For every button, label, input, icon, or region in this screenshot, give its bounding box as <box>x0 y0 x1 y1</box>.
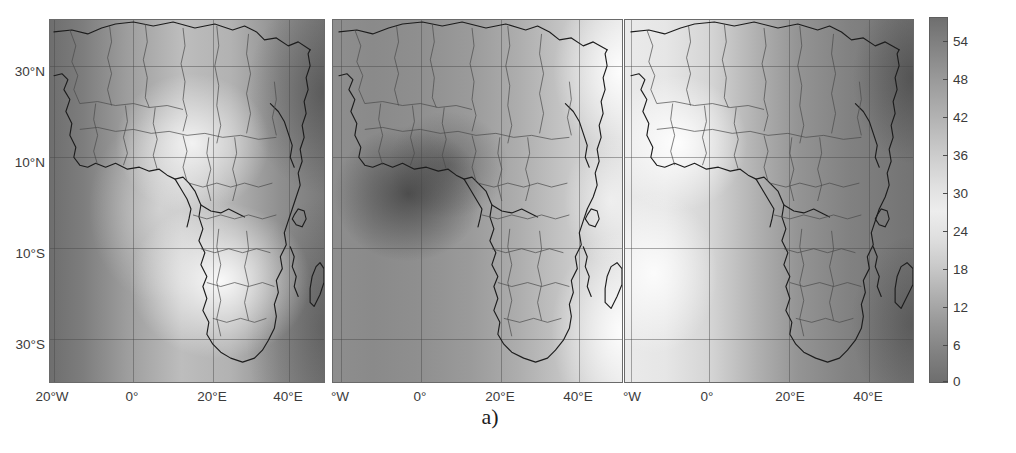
y-tick-label-30n: 30°N <box>0 64 45 79</box>
x-tick-label-p2-40e: 40°E <box>563 389 592 404</box>
x-tick-label-p3-20w: °W <box>623 389 641 404</box>
africa-map-outline-middle <box>333 20 622 382</box>
y-tick-text: 30°N <box>15 64 45 79</box>
colorbar-tick-mark <box>943 117 948 118</box>
colorbar-tick-mark <box>943 307 948 308</box>
colorbar-tick-label-42: 42 <box>953 110 968 125</box>
colorbar-tick-mark <box>943 155 948 156</box>
country-borders <box>70 24 276 336</box>
africa-map-outline-left <box>50 20 324 382</box>
colorbar-gradient <box>929 17 948 383</box>
x-tick-label-p1-20e: 20°E <box>197 389 226 404</box>
x-tick-label-p3-40e: 40°E <box>853 389 882 404</box>
x-tick-label-p1-20w: 20°W <box>35 389 68 404</box>
coastlines <box>54 22 324 362</box>
coastlines <box>339 22 622 362</box>
colorbar-tick-mark <box>943 381 948 382</box>
colorbar-tick-label-54: 54 <box>953 34 968 49</box>
y-tick-text: 30°S <box>16 337 45 352</box>
map-panel-middle[interactable] <box>332 19 623 383</box>
y-tick-text: 10°N <box>15 155 45 170</box>
map-panel-left[interactable] <box>49 19 325 383</box>
colorbar-tick-mark <box>943 345 948 346</box>
figure-root: 30°N 10°N 10°S 30°S <box>0 0 1016 453</box>
x-tick-label-p3-20e: 20°E <box>775 389 804 404</box>
colorbar-tick-mark <box>943 79 948 80</box>
figure-caption: a) <box>0 404 980 430</box>
map-panel-right[interactable] <box>624 19 914 383</box>
y-tick-text: 10°S <box>16 246 45 261</box>
y-tick-label-10n: 10°N <box>0 155 45 170</box>
coastlines <box>631 22 913 362</box>
y-tick-label-30s: 30°S <box>0 337 45 352</box>
colorbar-tick-label-36: 36 <box>953 148 968 163</box>
country-borders <box>355 24 572 336</box>
x-tick-label-p2-0: 0° <box>414 389 427 404</box>
colorbar-tick-label-0: 0 <box>953 374 961 389</box>
x-tick-label-p1-0: 0° <box>126 389 139 404</box>
colorbar-tick-label-6: 6 <box>953 338 961 353</box>
colorbar-tick-label-48: 48 <box>953 72 968 87</box>
colorbar-tick-mark <box>943 41 948 42</box>
y-tick-label-10s: 10°S <box>0 246 45 261</box>
x-tick-label-p1-40e: 40°E <box>273 389 302 404</box>
colorbar-tick-mark <box>943 193 948 194</box>
colorbar-tick-label-12: 12 <box>953 300 968 315</box>
colorbar-tick-label-18: 18 <box>953 262 968 277</box>
colorbar-tick-mark <box>943 231 948 232</box>
colorbar-tick-mark <box>943 269 948 270</box>
x-tick-label-p2-20w: °W <box>331 389 349 404</box>
colorbar-tick-label-24: 24 <box>953 224 968 239</box>
africa-map-outline-right <box>625 20 913 382</box>
x-tick-label-p3-0: 0° <box>701 389 714 404</box>
x-tick-label-p2-20e: 20°E <box>485 389 514 404</box>
colorbar-tick-label-30: 30 <box>953 186 968 201</box>
country-borders <box>647 24 862 336</box>
